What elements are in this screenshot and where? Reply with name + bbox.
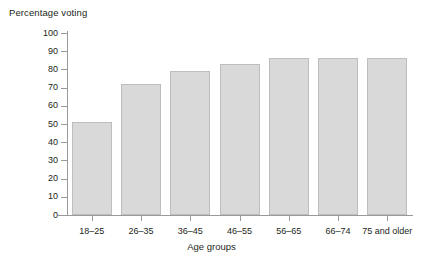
y-axis-tick-label: 40 <box>32 138 58 147</box>
y-axis-tick-label-wrap: 60 <box>29 101 58 110</box>
bar <box>318 58 358 215</box>
y-axis-tick <box>61 160 67 161</box>
y-axis-tick-label-wrap: 100 <box>29 29 58 38</box>
y-axis-tick-label: 10 <box>32 192 58 201</box>
y-axis-tick <box>61 124 67 125</box>
x-axis-tick <box>92 215 93 221</box>
bar <box>269 58 309 215</box>
y-axis-tick-label-wrap: 70 <box>29 83 58 92</box>
x-axis-line <box>58 215 413 216</box>
bar <box>220 64 260 215</box>
x-axis-tick <box>338 215 339 221</box>
y-axis-tick <box>61 106 67 107</box>
y-axis-tick-label: 50 <box>32 120 58 129</box>
y-axis-tick-label-wrap: 10 <box>29 192 58 201</box>
y-axis-tick <box>61 215 67 216</box>
y-axis-tick-label: 70 <box>32 83 58 92</box>
bar <box>72 122 112 215</box>
y-axis-tick-label-wrap: 90 <box>29 47 58 56</box>
y-axis-tick <box>61 69 67 70</box>
x-axis-tick <box>190 215 191 221</box>
y-axis-tick-label: 0 <box>32 211 58 220</box>
y-axis-tick-label: 80 <box>32 65 58 74</box>
y-axis-tick-label-wrap: 50 <box>29 120 58 129</box>
y-axis-tick <box>61 142 67 143</box>
bar <box>121 84 161 215</box>
x-axis-tick <box>240 215 241 221</box>
y-axis-tick <box>61 179 67 180</box>
bar-chart: Percentage voting 1009080706050403020100… <box>0 0 423 261</box>
y-axis-line <box>67 31 68 216</box>
y-axis-tick-label: 60 <box>32 101 58 110</box>
y-axis-tick <box>61 88 67 89</box>
x-axis-title: Age groups <box>0 241 423 252</box>
y-axis-tick-label-wrap: 80 <box>29 65 58 74</box>
y-axis-tick <box>61 51 67 52</box>
y-axis-tick-label-wrap: 30 <box>29 156 58 165</box>
y-axis-tick-label: 100 <box>32 29 58 38</box>
y-axis-tick-label-wrap: 0 <box>29 211 58 220</box>
y-axis-tick <box>61 33 67 34</box>
y-axis-tick-label-wrap: 40 <box>29 138 58 147</box>
y-axis-tick-label: 90 <box>32 47 58 56</box>
x-axis-tick <box>387 215 388 221</box>
y-axis-tick-label: 20 <box>32 174 58 183</box>
x-axis-tick <box>141 215 142 221</box>
x-axis-tick <box>289 215 290 221</box>
x-axis-tick-label: 75 and older <box>347 226 423 236</box>
y-axis-tick-label-wrap: 20 <box>29 174 58 183</box>
y-axis-tick-label: 30 <box>32 156 58 165</box>
bar <box>170 71 210 215</box>
y-axis-tick <box>61 197 67 198</box>
bar <box>367 58 407 215</box>
plot-area: 1009080706050403020100 18–2526–3536–4546… <box>0 0 423 261</box>
